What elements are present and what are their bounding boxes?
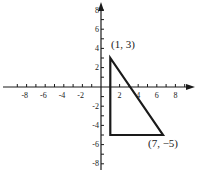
- x-axis-arrow-icon: [186, 84, 195, 90]
- x-tick-labels: -8 -6 -4 -2 2 4 6 8: [21, 91, 177, 100]
- svg-text:8: 8: [173, 91, 177, 100]
- svg-text:-2: -2: [77, 91, 84, 100]
- svg-text:-4: -4: [92, 121, 99, 130]
- svg-text:2: 2: [95, 63, 99, 72]
- coordinate-plane: -8 -6 -4 -2 2 4 6 8 8 6 4 2 -2 -4 -6 -8 …: [0, 0, 202, 176]
- svg-text:-8: -8: [21, 91, 28, 100]
- vertex-label-bottom-right: (7, −5): [148, 137, 178, 150]
- vertex-label-top: (1, 3): [111, 38, 135, 51]
- svg-text:-8: -8: [92, 159, 99, 168]
- svg-text:6: 6: [155, 91, 159, 100]
- svg-text:4: 4: [95, 44, 99, 53]
- svg-text:-2: -2: [92, 102, 99, 111]
- svg-text:-4: -4: [59, 91, 66, 100]
- svg-text:2: 2: [118, 91, 122, 100]
- svg-text:8: 8: [95, 6, 99, 15]
- svg-text:-6: -6: [40, 91, 47, 100]
- svg-text:-6: -6: [92, 140, 99, 149]
- svg-text:6: 6: [95, 25, 99, 34]
